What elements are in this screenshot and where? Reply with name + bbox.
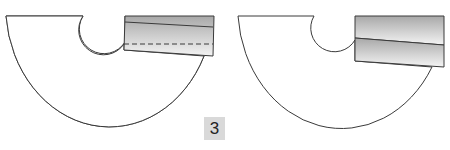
left-skirt-panel bbox=[6, 16, 214, 127]
right-waistband-unfolded bbox=[355, 16, 444, 67]
diagram-canvas bbox=[0, 0, 450, 150]
left-waistband-folded bbox=[124, 16, 214, 56]
right-skirt-panel bbox=[238, 16, 444, 129]
step-number-badge: 3 bbox=[204, 117, 225, 140]
